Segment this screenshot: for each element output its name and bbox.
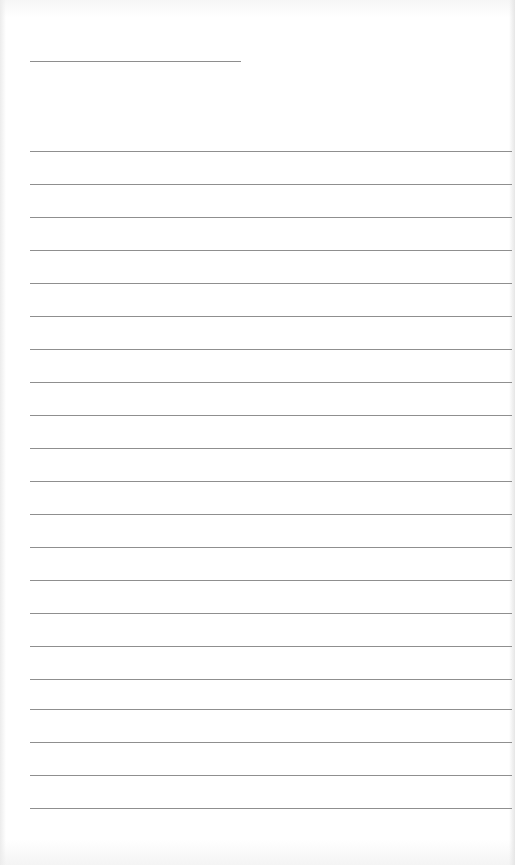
ruled-line bbox=[30, 349, 512, 350]
ruled-line bbox=[30, 646, 512, 647]
page-shadow-left bbox=[0, 0, 6, 865]
ruled-line bbox=[30, 217, 512, 218]
ruled-line bbox=[30, 547, 512, 548]
ruled-line bbox=[30, 250, 512, 251]
ruled-line bbox=[30, 742, 512, 743]
lined-paper-page bbox=[0, 0, 515, 865]
page-shadow-right bbox=[509, 0, 515, 865]
ruled-line bbox=[30, 481, 512, 482]
ruled-line bbox=[30, 709, 512, 710]
ruled-line bbox=[30, 316, 512, 317]
ruled-line bbox=[30, 448, 512, 449]
ruled-line bbox=[30, 679, 512, 680]
ruled-line bbox=[30, 184, 512, 185]
ruled-line bbox=[30, 382, 512, 383]
ruled-line bbox=[30, 283, 512, 284]
header-blank-line bbox=[30, 61, 241, 62]
ruled-line bbox=[30, 613, 512, 614]
ruled-line bbox=[30, 151, 512, 152]
ruled-line bbox=[30, 775, 512, 776]
ruled-line bbox=[30, 808, 512, 809]
ruled-line bbox=[30, 415, 512, 416]
ruled-line bbox=[30, 580, 512, 581]
ruled-line bbox=[30, 514, 512, 515]
